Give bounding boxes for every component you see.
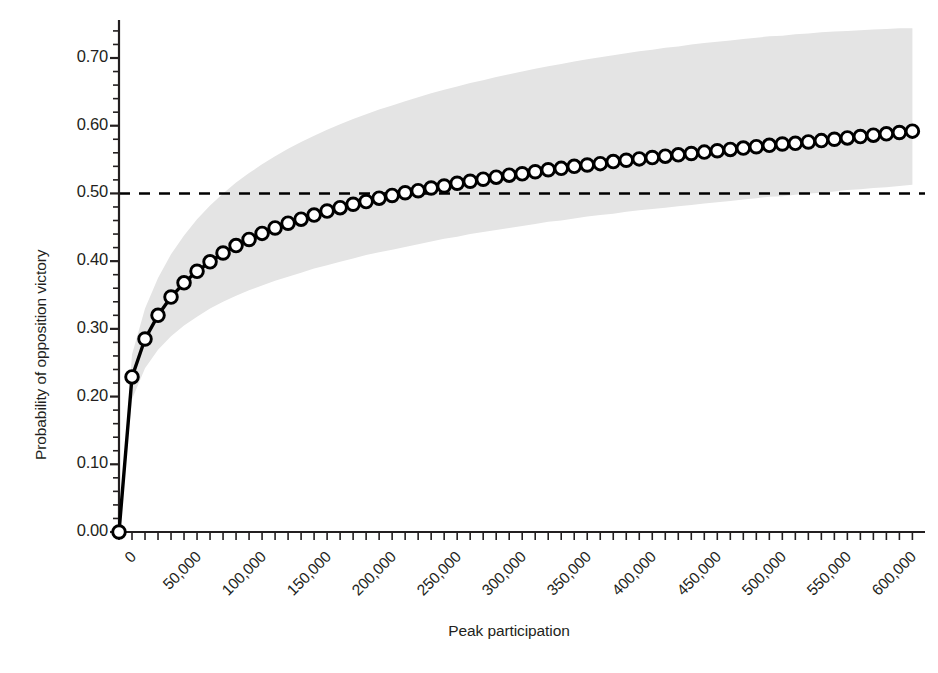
data-point	[321, 205, 334, 218]
data-point	[516, 167, 529, 180]
data-point	[217, 247, 230, 260]
data-point	[542, 163, 555, 176]
data-point	[282, 217, 295, 230]
y-tick-label: 0.00	[50, 521, 108, 540]
data-point	[802, 136, 815, 149]
data-point	[581, 159, 594, 172]
y-tick-label: 0.60	[50, 115, 108, 134]
data-point	[503, 169, 516, 182]
y-tick-label: 0.30	[50, 318, 108, 337]
data-point	[724, 143, 737, 156]
data-point	[659, 150, 672, 163]
data-point	[698, 146, 711, 159]
data-point	[737, 142, 750, 155]
y-tick-label: 0.10	[50, 453, 108, 472]
data-point	[477, 173, 490, 186]
data-point	[269, 222, 282, 235]
data-point	[230, 239, 243, 252]
data-point	[438, 180, 451, 193]
data-point	[373, 192, 386, 205]
data-point	[425, 182, 438, 195]
data-point	[399, 186, 412, 199]
y-tick-label: 0.70	[50, 47, 108, 66]
confidence-band	[119, 28, 912, 532]
data-point	[750, 140, 763, 153]
y-major-ticks	[110, 58, 119, 532]
data-point	[646, 151, 659, 164]
data-point	[906, 125, 919, 138]
data-point	[490, 171, 503, 184]
x-minor-ticks	[119, 532, 912, 540]
data-point	[308, 209, 321, 222]
data-point	[256, 227, 269, 240]
data-point	[139, 333, 152, 346]
data-point	[555, 162, 568, 175]
data-point	[464, 175, 477, 188]
data-point	[360, 195, 373, 208]
x-axis-title: Peak participation	[0, 622, 938, 640]
data-point	[685, 147, 698, 160]
data-point	[334, 201, 347, 214]
data-point	[568, 160, 581, 173]
data-point	[191, 265, 204, 278]
y-tick-label: 0.50	[50, 182, 108, 201]
chart-figure: 0.000.100.200.300.400.500.600.70 050,000…	[0, 0, 938, 673]
y-tick-label: 0.40	[50, 250, 108, 269]
data-point	[204, 256, 217, 269]
data-point	[529, 165, 542, 178]
data-point	[620, 154, 633, 167]
data-point	[451, 177, 464, 190]
data-point	[126, 371, 139, 384]
data-point	[815, 134, 828, 147]
y-tick-label: 0.20	[50, 386, 108, 405]
y-axis-title: Probability of opposition victory	[32, 250, 50, 460]
data-point	[594, 157, 607, 170]
data-point	[633, 153, 646, 166]
data-point	[347, 198, 360, 211]
data-point	[880, 128, 893, 141]
data-point	[165, 291, 178, 304]
data-point	[789, 137, 802, 150]
data-point	[711, 144, 724, 157]
data-point	[854, 130, 867, 143]
data-point	[828, 133, 841, 146]
data-point	[386, 189, 399, 202]
data-point	[412, 184, 425, 197]
data-point	[113, 526, 126, 539]
data-point	[178, 277, 191, 290]
data-point	[841, 132, 854, 145]
data-point	[152, 309, 165, 322]
data-point	[243, 233, 256, 246]
data-point	[672, 149, 685, 162]
data-point	[607, 155, 620, 168]
data-point	[776, 138, 789, 151]
data-point	[893, 126, 906, 139]
plot-canvas	[0, 0, 938, 673]
data-point	[867, 129, 880, 142]
data-point	[763, 139, 776, 152]
data-point	[295, 213, 308, 226]
